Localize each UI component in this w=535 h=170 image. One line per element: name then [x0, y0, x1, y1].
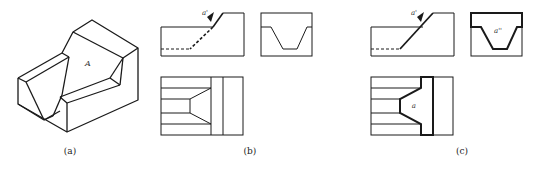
panel-b-top-view: [161, 77, 243, 135]
panel-c-front-view: [371, 12, 454, 56]
panel-b-three-view: [161, 12, 312, 135]
projection-label-side-c: a'': [494, 27, 502, 35]
panel-a-isometric: [18, 20, 138, 132]
panel-b-front-view: [161, 12, 244, 56]
caption-b: (b): [244, 146, 257, 156]
technical-drawing-canvas: [0, 0, 535, 170]
projection-label-front-c: a': [411, 9, 417, 17]
caption-a: (a): [64, 146, 76, 156]
caption-c: (c): [456, 146, 468, 156]
projection-label-front-b: a': [202, 9, 208, 17]
panel-b-side-view: [261, 13, 312, 56]
projection-label-top-c: a: [412, 102, 416, 110]
surface-label-a: A: [85, 59, 91, 68]
arrow-marker-icon: [417, 12, 424, 22]
